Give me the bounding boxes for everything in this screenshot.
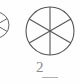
figure-label-underline: [42, 77, 58, 78]
figure-number-label: 2: [0, 59, 80, 75]
